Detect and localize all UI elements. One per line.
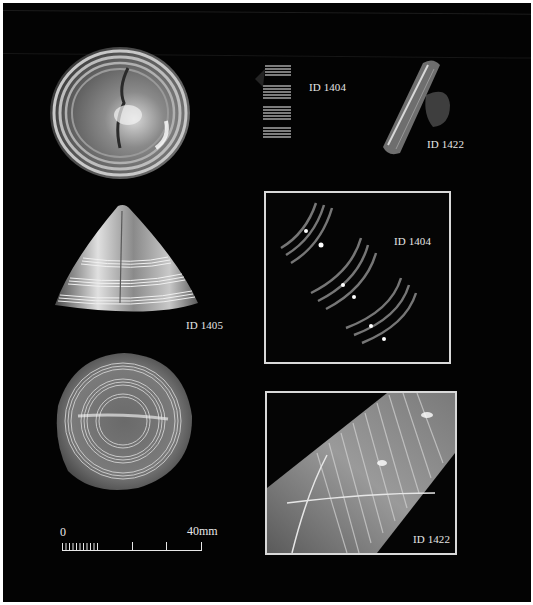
detail-frame-1422: ID 1422 — [265, 391, 457, 555]
detail-frame-1404: ID 1404 — [264, 191, 451, 364]
coil-artifact-1404 — [255, 59, 297, 154]
scan-artifact-line — [3, 10, 531, 15]
disc-artifact-bottom — [53, 351, 195, 493]
cone-artifact-1405 — [50, 203, 200, 315]
figure-plate: ID 1404 ID 1422 — [3, 3, 531, 602]
label-id-1422-detail: ID 1422 — [413, 533, 450, 545]
scale-bar-start-label: 0 — [60, 526, 66, 539]
label-id-1404-detail: ID 1404 — [394, 235, 431, 247]
scale-bar-end-label: 40mm — [187, 525, 218, 538]
label-id-1405: ID 1405 — [186, 319, 223, 331]
label-id-1404-top: ID 1404 — [309, 81, 346, 93]
label-id-1422-top: ID 1422 — [427, 138, 464, 150]
disc-artifact-top — [48, 43, 193, 183]
scale-bar — [61, 539, 206, 553]
